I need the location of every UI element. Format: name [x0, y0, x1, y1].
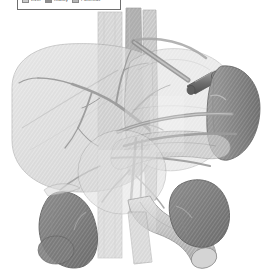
- anatomy-figure: [0, 0, 273, 271]
- legend-item: Liver: [22, 0, 41, 3]
- legend-swatch-icon: [72, 0, 79, 3]
- illustration-canvas: Liver Kidney Pancreas: [0, 0, 273, 271]
- legend-item: Pancreas: [72, 0, 100, 3]
- legend-swatch-icon: [22, 0, 29, 3]
- legend-box: Liver Kidney Pancreas: [17, 0, 121, 10]
- lymph-node: [38, 236, 74, 264]
- legend-swatch-icon: [45, 0, 52, 3]
- legend-item: Kidney: [45, 0, 68, 3]
- legend-item-label: Kidney: [54, 0, 68, 3]
- legend-item-label: Liver: [31, 0, 41, 3]
- legend-item-label: Pancreas: [81, 0, 100, 3]
